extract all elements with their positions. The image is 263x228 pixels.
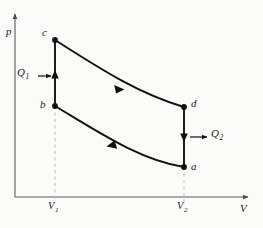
heat-label-q1-sub: 1: [25, 72, 29, 81]
process-a-to-b: [55, 106, 184, 167]
cycle-path-group: [55, 40, 184, 167]
x-tick-label-v1-sub: 1: [55, 206, 59, 214]
node-label-c: c: [42, 27, 47, 38]
heat-label-q2-sub: 2: [219, 133, 223, 142]
diagram-canvas: [0, 0, 263, 228]
x-tick-label-v1-text: V: [48, 200, 54, 211]
arrowhead-d-to-a-down: [180, 134, 188, 142]
x-tick-label-v1: V1: [48, 201, 58, 212]
arrowhead-b-to-c-up: [51, 70, 59, 78]
node-dots-group: [52, 37, 187, 170]
heat-label-q2: Q2: [211, 128, 223, 139]
node-dot-c: [52, 37, 58, 43]
axes-group: [15, 14, 248, 197]
x-tick-label-v2: V2: [177, 201, 187, 212]
node-dot-b: [52, 103, 58, 109]
arrowhead-c-to-d-right: [114, 85, 124, 94]
direction-arrowheads-group: [51, 70, 188, 149]
y-axis-label: p: [6, 26, 12, 37]
node-dot-a: [181, 164, 187, 170]
node-label-d: d: [191, 98, 197, 109]
node-dot-d: [181, 104, 187, 110]
heat-label-q2-text: Q: [211, 127, 219, 139]
x-tick-label-v2-sub: 2: [184, 206, 188, 214]
node-label-b: b: [40, 99, 46, 110]
heat-label-q1: Q1: [17, 67, 29, 78]
pv-diagram-figure: p V V1 V2 c b d a Q1 Q2: [0, 0, 263, 228]
heat-label-q1-text: Q: [17, 66, 25, 78]
x-axis-label: V: [240, 203, 247, 214]
volume-guides-group: [55, 106, 184, 202]
process-c-to-d: [55, 40, 184, 107]
node-label-a: a: [191, 161, 197, 172]
x-tick-label-v2-text: V: [177, 200, 183, 211]
